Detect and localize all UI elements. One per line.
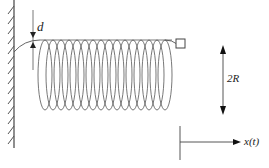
displacement-axis <box>180 126 241 160</box>
mass <box>176 39 185 48</box>
diameter-label: 2R <box>227 73 239 84</box>
coil <box>38 40 172 110</box>
displacement-label: x(t) <box>244 136 259 147</box>
diameter-dimension <box>220 45 226 115</box>
wall <box>8 0 14 148</box>
gap-label: d <box>37 20 44 33</box>
lead-wire <box>14 40 40 52</box>
